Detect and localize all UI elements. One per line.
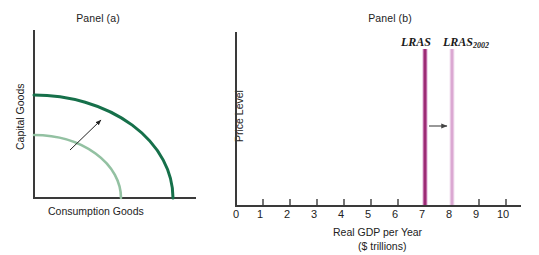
panel-b-plot: [225, 0, 539, 255]
panel-b-x-ticks: [263, 199, 506, 206]
ppc-curve-before: [34, 135, 121, 198]
economics-figure: Panel (a) Capital Goods Consumption Good…: [0, 0, 539, 255]
ppc-curve-after: [34, 95, 173, 198]
panel-b: Panel (b) Price Level Real GDP per Year …: [225, 0, 539, 255]
ppc-shift-arrow: [70, 120, 101, 150]
panel-a-plot: [0, 0, 240, 255]
panel-a: Panel (a) Capital Goods Consumption Good…: [0, 0, 240, 255]
